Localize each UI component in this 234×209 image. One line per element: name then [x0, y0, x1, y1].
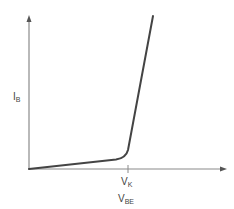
- x-axis-arrow-icon: [220, 167, 227, 172]
- y-axis-label: IB: [13, 92, 20, 103]
- knee-voltage-label: VK: [121, 177, 132, 188]
- y-axis-label-sub: B: [16, 96, 21, 103]
- x-axis-label-sub: BE: [125, 198, 134, 205]
- x-axis-label: VBE: [118, 194, 134, 205]
- diagram-canvas: [0, 0, 234, 209]
- knee-label-main: V: [121, 176, 128, 187]
- x-axis-label-main: V: [118, 193, 125, 204]
- ib-vbe-curve: [29, 16, 153, 169]
- y-axis-arrow-icon: [27, 15, 32, 22]
- knee-label-sub: K: [128, 181, 133, 188]
